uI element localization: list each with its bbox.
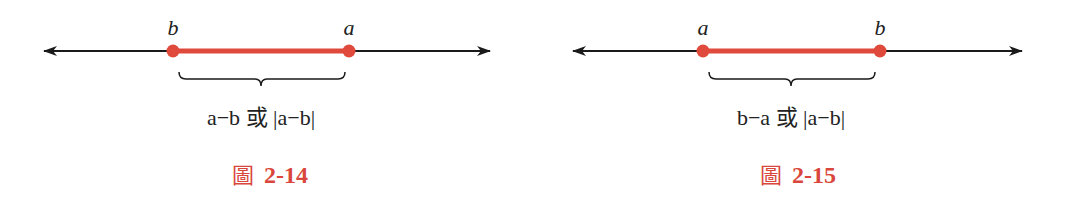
distance-expression: b−a 或 |a−b| — [737, 105, 845, 130]
figure-caption: 圖2-15 — [760, 162, 836, 188]
right-point-label: b — [875, 15, 886, 40]
point-left — [697, 45, 710, 58]
point-left — [167, 45, 180, 58]
brace-icon — [179, 72, 345, 86]
figure-2-14: b a a−b 或 |a−b| 圖2-14 — [44, 15, 490, 188]
number-line-diagrams: b a a−b 或 |a−b| 圖2-14 a b b−a 或 |a−b| 圖2… — [0, 0, 1077, 199]
figure-caption: 圖2-14 — [232, 162, 308, 188]
left-point-label: a — [698, 15, 709, 40]
point-right — [874, 45, 887, 58]
right-point-label: a — [344, 15, 355, 40]
point-right — [343, 45, 356, 58]
distance-expression: a−b 或 |a−b| — [207, 105, 315, 130]
brace-icon — [709, 72, 875, 86]
figure-2-15: a b b−a 或 |a−b| 圖2-15 — [573, 15, 1022, 188]
left-point-label: b — [168, 15, 179, 40]
